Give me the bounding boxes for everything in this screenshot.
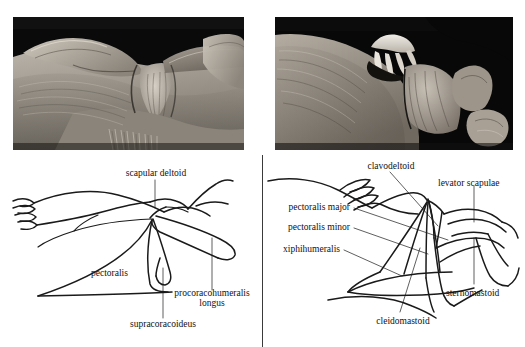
leader-pectoralis-minor <box>354 228 428 254</box>
label-pectoralis-minor: pectoralis minor <box>262 222 350 233</box>
leader-cleidomastoid <box>400 248 420 312</box>
label-pectoralis-major: pectoralis major <box>262 202 350 213</box>
leader-clavodeltoid <box>390 172 438 226</box>
label-procoracohumeralis-longus-second-line: longus <box>166 298 258 309</box>
panel-divider <box>262 155 263 347</box>
anatomy-figure: scapular deltoid pectoralis procoracohum… <box>0 0 525 347</box>
label-pectoralis: pectoralis <box>91 268 128 279</box>
leader-xiphihumeralis <box>344 250 402 276</box>
label-procoracohumeralis: procoracohumeralis <box>166 288 258 299</box>
label-clavodeltoid: clavodeltoid <box>350 161 432 172</box>
label-sternomastoid: sternomastoid <box>446 288 499 299</box>
label-xiphihumeralis: xiphihumeralis <box>262 244 340 255</box>
label-levator-scapulae: levator scapulae <box>438 178 499 189</box>
label-supracoracoideus: supracoracoideus <box>108 319 218 330</box>
panel-right: clavodeltoid levator scapulae pectoralis… <box>262 0 525 347</box>
label-scapular-deltoid: scapular deltoid <box>101 168 211 179</box>
leader-pectoralis-major <box>354 208 448 240</box>
label-cleidomastoid: cleidomastoid <box>360 316 446 327</box>
panel-left: scapular deltoid pectoralis procoracohum… <box>0 0 262 347</box>
